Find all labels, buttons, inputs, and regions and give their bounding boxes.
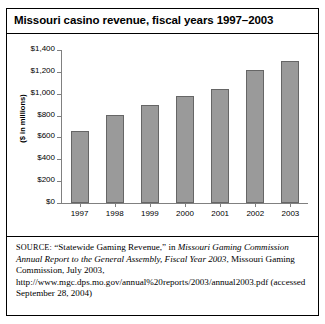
- y-tick-label: $400: [37, 153, 55, 162]
- x-tick-mark: [290, 203, 291, 207]
- y-tick-label: $800: [37, 110, 55, 119]
- title-divider: [7, 33, 318, 34]
- source-divider: [7, 236, 318, 237]
- y-tick-mark: [57, 203, 62, 204]
- bar-slot: [273, 50, 308, 203]
- bar: [246, 70, 264, 203]
- bar-slot: [97, 50, 132, 203]
- x-tick-mark: [115, 203, 116, 207]
- bar: [71, 131, 89, 203]
- y-tick-label: $1,400: [31, 44, 55, 53]
- figure-container: Missouri casino revenue, fiscal years 19…: [0, 0, 325, 324]
- bar-slot: [62, 50, 97, 203]
- x-tick-label: 2001: [211, 209, 229, 218]
- x-tick-mark: [185, 203, 186, 207]
- bar-series: [62, 50, 308, 203]
- bar-slot: [132, 50, 167, 203]
- y-axis-title: ($ in millions): [18, 71, 27, 167]
- chart-axes: $0$200$400$600$800$1,000$1,200$1,400 199…: [61, 50, 308, 203]
- x-tick-label: 1997: [71, 209, 89, 218]
- source-text-part1: “Statewide Gaming Revenue,” in: [52, 242, 178, 252]
- bar-slot: [167, 50, 202, 203]
- x-tick-mark: [220, 203, 221, 207]
- source-label: SOURCE:: [16, 243, 52, 252]
- x-tick-label: 2000: [176, 209, 194, 218]
- x-tick-mark: [80, 203, 81, 207]
- bar-slot: [203, 50, 238, 203]
- y-tick-label: $1,000: [31, 88, 55, 97]
- bar: [106, 115, 124, 203]
- y-tick-label: $1,200: [31, 66, 55, 75]
- y-tick-label: $0: [46, 197, 55, 206]
- bar: [211, 89, 229, 203]
- x-tick-label: 1999: [141, 209, 159, 218]
- bar: [176, 96, 194, 203]
- bar-slot: [238, 50, 273, 203]
- y-tick-label: $600: [37, 131, 55, 140]
- x-tick-mark: [150, 203, 151, 207]
- chart-plot-area: ($ in millions) $0$200$400$600$800$1,000…: [7, 36, 318, 234]
- bar: [141, 105, 159, 203]
- source-citation: SOURCE: “Statewide Gaming Revenue,” in M…: [16, 242, 306, 300]
- y-tick-label: $200: [37, 175, 55, 184]
- x-tick-label: 2003: [282, 209, 300, 218]
- figure-title: Missouri casino revenue, fiscal years 19…: [14, 14, 273, 26]
- x-tick-mark: [255, 203, 256, 207]
- x-tick-label: 2002: [246, 209, 264, 218]
- x-tick-label: 1998: [106, 209, 124, 218]
- bar: [281, 61, 299, 203]
